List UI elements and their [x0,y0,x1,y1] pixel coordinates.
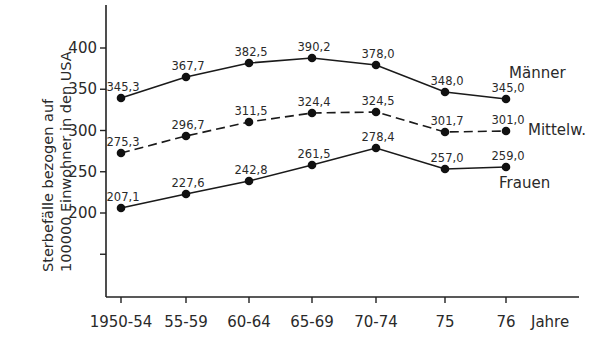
data-label: 348,0 [431,74,464,88]
data-label: 367,7 [172,59,205,73]
data-point [441,165,450,174]
data-point [308,109,317,118]
data-point [245,59,254,68]
data-label: 324,4 [298,95,331,109]
data-point [182,132,191,141]
x-tick-label: 55-59 [164,313,208,331]
data-label: 259,0 [492,149,525,163]
data-point [117,149,126,158]
data-point [245,177,254,186]
data-label: 296,7 [172,118,205,132]
data-point [372,108,381,117]
data-point [308,161,317,170]
x-tick-label: 75 [435,313,454,331]
data-label: 227,6 [172,176,205,190]
data-label: 382,5 [235,45,268,59]
data-label: 278,4 [362,130,395,144]
series-mittelw: 275,3296,7311,5324,4324,5301,7301,0Mitte… [107,94,586,157]
data-label: 390,2 [298,40,331,54]
data-label: 301,7 [431,114,464,128]
data-point [117,204,126,213]
data-point [245,118,254,127]
x-tick-label: 65-69 [290,313,334,331]
data-point [441,128,450,137]
x-tick-label: 1950-54 [90,313,153,331]
data-label: 345,3 [107,80,140,94]
y-axis-title: Sterbefälle bezogen auf 100000 Einwohner… [40,51,74,272]
series-männer: 345,3367,7382,5390,2378,0348,0345,0Männe… [107,40,567,103]
x-axis-ticks: 1950-5455-5960-6465-6970-747576 [90,297,516,331]
data-label: 345,0 [492,81,525,95]
data-label: 207,1 [107,190,140,204]
series-name-label: Frauen [499,174,550,192]
data-point [182,73,191,82]
line-chart: 200250300350400 1950-5455-5960-6465-6970… [0,0,590,338]
data-point [372,144,381,153]
data-point [308,54,317,63]
series-name-label: Männer [509,64,566,82]
data-point [502,95,511,104]
data-label: 301,0 [492,113,525,127]
x-tick-label: 60-64 [227,313,271,331]
data-label: 311,5 [235,104,268,118]
data-label: 324,5 [362,94,395,108]
y-axis-title-line-2: 100000 Einwohner in den USA [58,51,74,272]
data-point [372,61,381,70]
data-point [441,88,450,97]
y-axis-title-line-1: Sterbefälle bezogen auf [40,98,56,272]
series-name-label: Mittelw. [528,121,586,139]
series-group: 345,3367,7382,5390,2378,0348,0345,0Männe… [107,40,586,212]
data-point [117,94,126,103]
data-label: 261,5 [298,147,331,161]
x-axis-title: Jahre [530,313,569,331]
data-point [182,190,191,199]
data-point [502,127,511,136]
data-point [502,163,511,172]
y-axis-ticks: 200250300350400 [68,39,106,254]
data-label: 378,0 [362,47,395,61]
data-label: 275,3 [107,135,140,149]
data-label: 242,8 [235,163,268,177]
x-tick-label: 76 [496,313,515,331]
data-label: 257,0 [431,151,464,165]
series-frauen: 207,1227,6242,8261,5278,4257,0259,0Fraue… [107,130,551,212]
x-tick-label: 70-74 [354,313,398,331]
